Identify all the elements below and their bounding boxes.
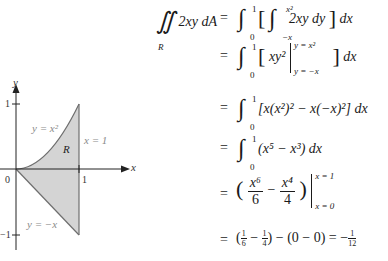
- curve-label-upper: y = x²: [32, 122, 58, 134]
- step-2: ∫ 1 0 [ xy² y = x² y = −x ] dx: [238, 40, 357, 73]
- lower-limit: 0: [250, 122, 255, 132]
- eq-sign-4: =: [220, 140, 228, 156]
- lhs-double-integral: ∬ R 2xy dA: [156, 4, 217, 32]
- y-axis-label: y: [13, 76, 18, 88]
- result-middle: − (0 − 0) = −: [276, 230, 348, 245]
- eval-upper: y = x²: [294, 40, 315, 50]
- inner-upper-limit: x²: [286, 4, 293, 14]
- integral-sign: ∫: [238, 5, 245, 31]
- upper-limit: 1: [252, 4, 257, 14]
- fraction-x4-over-4: x⁴ 4: [280, 175, 295, 208]
- x-tick-label-1: 1: [82, 174, 87, 185]
- curve-label-right: x = 1: [84, 134, 107, 146]
- eq-sign-1: =: [220, 10, 228, 26]
- dx: dx: [309, 141, 322, 156]
- integral-sign: ∫: [238, 43, 245, 69]
- lower-limit: 0: [250, 162, 255, 172]
- fraction-1-6: 16: [241, 229, 247, 248]
- eq-sign-6: =: [220, 232, 228, 248]
- origin-label: 0: [5, 174, 10, 185]
- integrand: [x(x²)² − x(−x)²]: [258, 101, 351, 116]
- evaluation-bar: x = 1 x = 0: [311, 174, 350, 208]
- antiderivative: xy²: [269, 49, 286, 64]
- eq-sign-5: =: [220, 186, 228, 202]
- eval-upper: x = 1: [315, 171, 334, 181]
- upper-limit: 1: [252, 134, 257, 144]
- y-tick-label-neg1: −1: [0, 229, 11, 240]
- fraction-1-12: 112: [348, 229, 356, 248]
- lhs-integrand: 2xy dA: [179, 14, 217, 29]
- numerator: x⁶: [248, 175, 263, 192]
- lower-limit: 0: [250, 70, 255, 80]
- eval-lower: y = −x: [294, 66, 319, 76]
- step-3: ∫ 1 0 [x(x²)² − x(−x)²] dx: [238, 92, 368, 119]
- fraction-x6-over-6: x⁶ 6: [248, 175, 263, 208]
- upper-limit: 1: [252, 94, 257, 104]
- inner-integral-sign: ∫: [269, 5, 276, 31]
- dx: dx: [354, 101, 367, 116]
- integral-sign: ∫: [238, 135, 245, 161]
- denominator: 6: [248, 192, 263, 208]
- region-plot: [0, 0, 150, 261]
- dx: dx: [339, 11, 352, 26]
- bracket-open: [: [258, 5, 265, 30]
- eq-sign-2: =: [220, 48, 228, 64]
- numerator: x⁴: [280, 175, 295, 192]
- region-subscript: R: [158, 42, 164, 52]
- step-4: ∫ 1 0 (x⁵ − x³) dx: [238, 132, 322, 159]
- step-6-result: (16 − 14) − (0 − 0) = −112: [236, 229, 356, 248]
- double-integral-sign: ∬: [156, 8, 175, 34]
- curve-label-lower: y = −x: [27, 218, 57, 230]
- integral-sign: ∫: [238, 95, 245, 121]
- evaluation-bar: y = x² y = −x: [290, 43, 329, 73]
- bracket-close: ]: [329, 5, 336, 30]
- denominator: 4: [280, 192, 295, 208]
- region-figure: y x 1 −1 0 1 y = x² x = 1 R y = −x: [0, 0, 150, 261]
- eval-lower: x = 0: [315, 201, 334, 211]
- dx: dx: [343, 49, 356, 64]
- x-axis-arrow-icon: [121, 166, 130, 173]
- eq-sign-3: =: [220, 100, 228, 116]
- x-axis-label: x: [131, 161, 136, 173]
- inner-integrand: 2xy dy: [289, 11, 325, 26]
- y-tick-label-1: 1: [5, 98, 10, 109]
- step-1: ∫ 1 0 [ ∫ x² −x 2xy dy ] dx: [238, 2, 353, 29]
- region-label: R: [63, 143, 70, 155]
- integrand: (x⁵ − x³): [258, 141, 305, 156]
- step-5: ( x⁶ 6 − x⁴ 4 ) x = 1 x = 0: [236, 174, 350, 208]
- minus: −: [267, 182, 275, 197]
- upper-limit: 1: [252, 42, 257, 52]
